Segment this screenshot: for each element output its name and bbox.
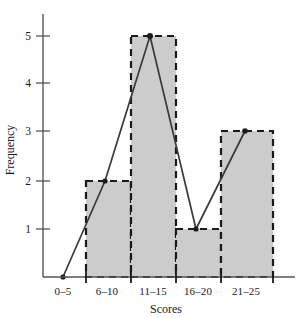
data-point-16-20 <box>193 226 198 231</box>
data-point-6-10 <box>102 178 107 183</box>
y-axis-title: Frequency <box>3 125 17 176</box>
x-axis-title: Scores <box>150 302 182 316</box>
x-category-label-11-15: 11–15 <box>139 285 167 297</box>
y-tick-label-1: 1 <box>25 223 31 235</box>
bar-11-15 <box>131 36 176 277</box>
x-category-label-0-5: 0–5 <box>55 285 72 297</box>
x-category-label-6-10: 6–10 <box>96 285 119 297</box>
y-tick-label-5: 5 <box>25 30 31 42</box>
frequency-histogram-chart: 5 4 3 2 1 0–5 6–10 11–15 16–20 21–25 Sco… <box>0 0 303 318</box>
y-tick-label-2: 2 <box>25 175 31 187</box>
bar-16-20 <box>176 229 221 277</box>
data-point-21-25 <box>242 128 248 134</box>
x-axis-category-labels: 0–5 6–10 11–15 16–20 21–25 <box>55 285 261 297</box>
bar-6-10 <box>86 181 131 277</box>
x-category-label-21-25: 21–25 <box>232 285 260 297</box>
y-tick-label-4: 4 <box>25 77 31 89</box>
data-point-11-15 <box>147 33 153 39</box>
bar-21-25 <box>221 131 273 277</box>
y-tick-label-3: 3 <box>25 125 31 137</box>
y-axis-tick-labels: 5 4 3 2 1 <box>25 30 31 235</box>
x-category-label-16-20: 16–20 <box>184 285 212 297</box>
chart-canvas: 5 4 3 2 1 0–5 6–10 11–15 16–20 21–25 Sco… <box>0 0 303 318</box>
